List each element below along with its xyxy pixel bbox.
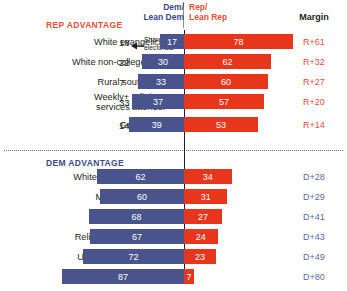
bar-rep: 23 bbox=[184, 249, 216, 264]
bar-dem: 62 bbox=[97, 169, 184, 184]
bar-value-dem: 39 bbox=[129, 120, 184, 129]
row-margin: R+27 bbox=[285, 77, 343, 87]
bar-value-rep: 34 bbox=[184, 172, 232, 181]
column-header-rep: Rep/ Lean Rep bbox=[189, 3, 269, 22]
bar-rep: 62 bbox=[184, 54, 271, 69]
bar-value-dem: 68 bbox=[89, 212, 184, 221]
bar-dem: 67 bbox=[90, 229, 184, 244]
bar-value-rep: 31 bbox=[184, 192, 227, 201]
bar-value-rep: 7 bbox=[184, 272, 194, 281]
row-margin: D+29 bbox=[285, 192, 343, 202]
chart-row: White college+ women136234D+28 bbox=[0, 168, 347, 185]
chart-row: Weekly+ religious services attender33375… bbox=[0, 93, 347, 110]
bar-rep: 27 bbox=[184, 209, 222, 224]
bar-value-rep: 24 bbox=[184, 232, 218, 241]
bar-dem: 17 bbox=[160, 34, 184, 49]
bar-dem: 87 bbox=[62, 269, 184, 284]
bar-rep: 7 bbox=[184, 269, 194, 284]
column-header-margin: Margin bbox=[285, 13, 343, 23]
bar-dem: 60 bbox=[100, 189, 184, 204]
row-margin: R+61 bbox=[285, 37, 343, 47]
bar-rep: 34 bbox=[184, 169, 232, 184]
row-share-of-electorate: 18 bbox=[119, 36, 139, 47]
chart-row: White non-college men223062R+32 bbox=[0, 53, 347, 70]
row-margin: D+49 bbox=[285, 252, 343, 262]
chart-row: White evangelical181778R+61 bbox=[0, 33, 347, 50]
chart-row: Gen X men143953R+14 bbox=[0, 116, 347, 133]
bar-value-dem: 87 bbox=[62, 272, 184, 281]
diverging-bar-chart: Dem/ Lean Dem Rep/ Lean Rep Margin REP A… bbox=[0, 0, 347, 291]
bar-value-rep: 60 bbox=[184, 77, 268, 86]
bar-rep: 31 bbox=[184, 189, 227, 204]
bar-value-dem: 33 bbox=[138, 77, 184, 86]
bar-rep: 24 bbox=[184, 229, 218, 244]
row-share-of-electorate: 22 bbox=[119, 56, 139, 67]
bar-value-rep: 23 bbox=[184, 252, 216, 261]
bar-rep: 78 bbox=[184, 34, 293, 49]
row-margin: R+14 bbox=[285, 120, 343, 130]
bar-value-rep: 78 bbox=[184, 37, 293, 46]
bar-rep: 60 bbox=[184, 74, 268, 89]
bar-dem: 30 bbox=[142, 54, 184, 69]
row-margin: D+28 bbox=[285, 172, 343, 182]
chart-row: Rural southerner73360R+27 bbox=[0, 73, 347, 90]
bar-value-rep: 57 bbox=[184, 97, 264, 106]
row-margin: R+20 bbox=[285, 97, 343, 107]
bar-value-dem: 62 bbox=[97, 172, 184, 181]
row-share-of-electorate: 7 bbox=[119, 76, 139, 87]
bar-dem: 33 bbox=[138, 74, 184, 89]
bar-dem: 72 bbox=[83, 249, 184, 264]
row-margin: D+80 bbox=[285, 272, 343, 282]
bar-rep: 53 bbox=[184, 117, 258, 132]
section-title-dem-advantage: DEM ADVANTAGE bbox=[46, 158, 124, 168]
chart-row: Millennial women116031D+29 bbox=[0, 188, 347, 205]
bar-value-rep: 27 bbox=[184, 212, 222, 221]
bar-dem: 37 bbox=[132, 94, 184, 109]
row-margin: D+41 bbox=[285, 212, 343, 222]
bar-value-rep: 62 bbox=[184, 57, 271, 66]
bar-dem: 39 bbox=[129, 117, 184, 132]
bar-value-dem: 72 bbox=[83, 252, 184, 261]
chart-row: Religiously unaffiliated256724D+43 bbox=[0, 228, 347, 245]
row-margin: R+32 bbox=[285, 57, 343, 67]
bar-value-rep: 53 bbox=[184, 120, 258, 129]
bar-value-dem: 67 bbox=[90, 232, 184, 241]
section-divider bbox=[4, 150, 343, 151]
bar-value-dem: 60 bbox=[100, 192, 184, 201]
bar-value-dem: 37 bbox=[132, 97, 184, 106]
column-header-dem: Dem/ Lean Dem bbox=[118, 3, 187, 22]
chart-row: Urban Northeasterner67223D+49 bbox=[0, 248, 347, 265]
row-label: White evangelical bbox=[16, 37, 166, 47]
section-title-rep-advantage: REP ADVANTAGE bbox=[46, 20, 123, 30]
chart-row: Hispanic Catholic56827D+41 bbox=[0, 208, 347, 225]
bar-value-dem: 30 bbox=[142, 57, 184, 66]
bar-value-dem: 17 bbox=[160, 37, 184, 46]
chart-row: Black women7877D+80 bbox=[0, 268, 347, 285]
bar-rep: 57 bbox=[184, 94, 264, 109]
row-margin: D+43 bbox=[285, 232, 343, 242]
bar-dem: 68 bbox=[89, 209, 184, 224]
